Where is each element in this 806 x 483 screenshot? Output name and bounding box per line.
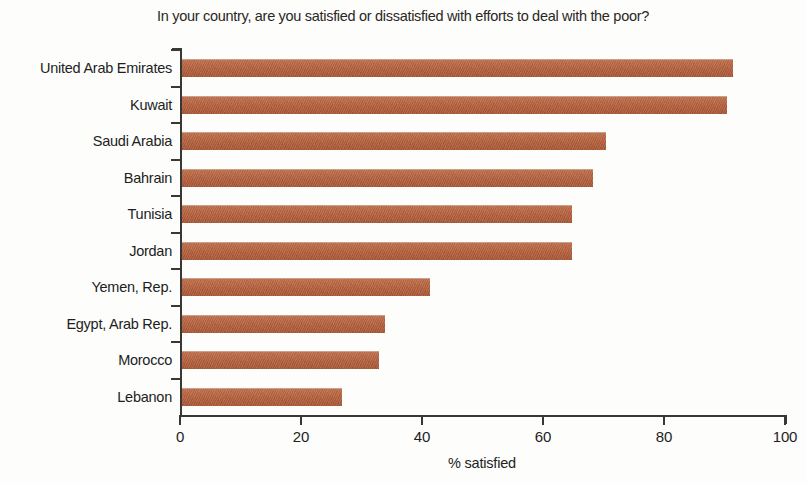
bar-row: Saudi Arabia xyxy=(0,123,806,160)
x-axis-title-text: % satisfied xyxy=(448,455,516,471)
category-label: Lebanon xyxy=(117,389,172,405)
category-label: United Arab Emirates xyxy=(40,60,172,76)
x-axis-tick-label: 80 xyxy=(656,428,672,445)
bar-row: Bahrain xyxy=(0,160,806,197)
chart-title: In your country, are you satisfied or di… xyxy=(0,8,806,24)
x-axis-tick xyxy=(784,415,786,425)
x-axis-tick xyxy=(300,415,302,425)
y-axis-tick xyxy=(171,341,181,343)
bar-row: Yemen, Rep. xyxy=(0,269,806,306)
x-axis-tick xyxy=(421,415,423,425)
y-axis-tick xyxy=(171,268,181,270)
x-axis-line xyxy=(180,415,787,417)
x-axis-tick-label: 100 xyxy=(773,428,797,445)
x-axis-title: % satisfied xyxy=(0,455,806,471)
x-axis-tick-label: 60 xyxy=(535,428,551,445)
category-label: Tunisia xyxy=(128,206,172,222)
bar xyxy=(182,388,342,406)
bar xyxy=(182,278,430,296)
x-axis-tick-label: 0 xyxy=(176,428,184,445)
y-axis-tick xyxy=(171,378,181,380)
bar xyxy=(182,351,379,369)
y-axis-tick xyxy=(171,86,181,88)
bar xyxy=(182,132,606,150)
category-label: Morocco xyxy=(118,352,172,368)
category-label: Jordan xyxy=(129,243,172,259)
x-axis-tick xyxy=(179,415,181,425)
bar-row: United Arab Emirates xyxy=(0,50,806,87)
category-label: Bahrain xyxy=(124,170,172,186)
y-axis-tick xyxy=(171,305,181,307)
x-axis-tick xyxy=(663,415,665,425)
bar-row: Lebanon xyxy=(0,379,806,416)
y-axis-tick xyxy=(171,195,181,197)
bar-row: Morocco xyxy=(0,342,806,379)
bar xyxy=(182,242,572,260)
chart-figure: In your country, are you satisfied or di… xyxy=(0,0,806,483)
x-axis-tick xyxy=(542,415,544,425)
y-axis-tick xyxy=(171,159,181,161)
x-axis-tick-label: 40 xyxy=(414,428,430,445)
category-label: Egypt, Arab Rep. xyxy=(66,316,172,332)
bar-row: Kuwait xyxy=(0,87,806,124)
bar xyxy=(182,96,727,114)
x-axis-tick-label: 20 xyxy=(293,428,309,445)
bar-row: Egypt, Arab Rep. xyxy=(0,306,806,343)
y-axis-tick xyxy=(171,49,181,51)
category-label: Kuwait xyxy=(130,97,172,113)
y-axis-tick xyxy=(171,122,181,124)
bar xyxy=(182,315,385,333)
category-label: Yemen, Rep. xyxy=(91,279,172,295)
bar-row: Jordan xyxy=(0,233,806,270)
category-label: Saudi Arabia xyxy=(93,133,172,149)
y-axis-tick xyxy=(171,232,181,234)
bar-row: Tunisia xyxy=(0,196,806,233)
bar xyxy=(182,59,733,77)
bar xyxy=(182,169,593,187)
bar xyxy=(182,205,572,223)
